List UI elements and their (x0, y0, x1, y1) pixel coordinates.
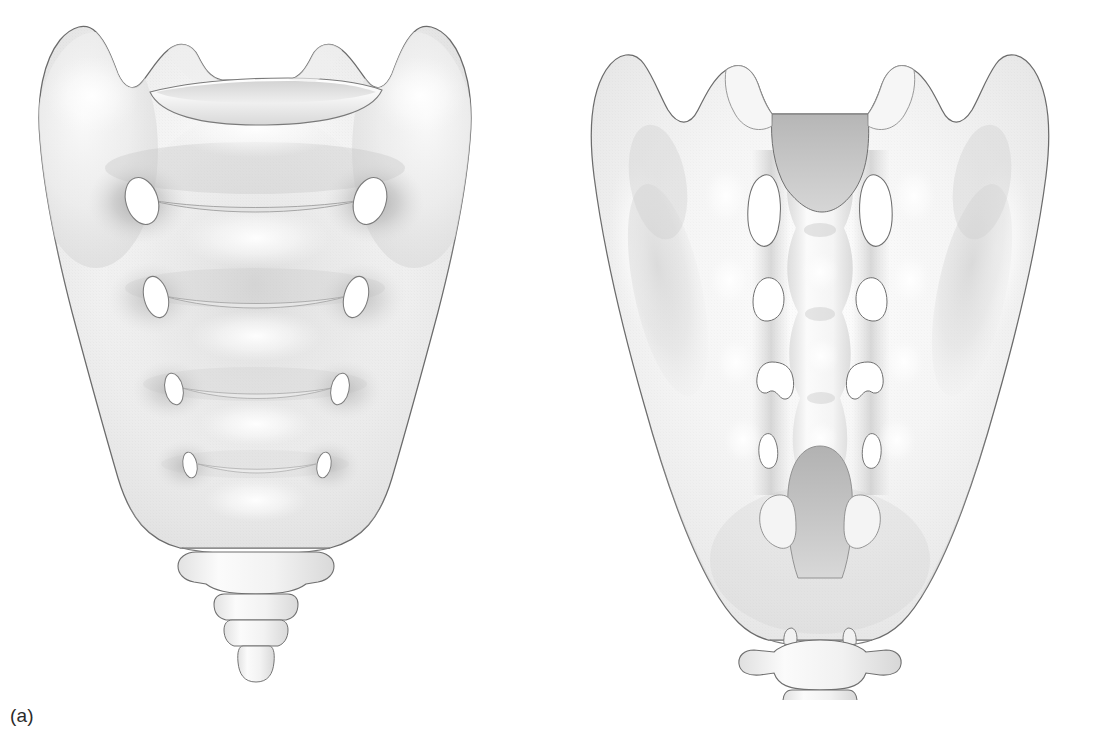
posterior-sacral-foramen-s1-right (860, 175, 893, 247)
posterior-sacral-foramen-s2-left (753, 278, 784, 321)
posterior-sacral-foramen-s4-right (862, 434, 881, 469)
panel-label-a: (a) (10, 705, 34, 727)
crest-notch-3 (807, 392, 835, 404)
sacral-hiatus (787, 446, 852, 578)
coccyx-segment-2 (214, 594, 298, 620)
posterior-sacral-foramen-s2-right (856, 278, 887, 321)
highlight-ala-left (46, 56, 138, 136)
sacrum-posterior-body (540, 0, 1099, 700)
coccyx-segment-1 (178, 552, 334, 594)
highlight-s5-body (204, 478, 308, 522)
anterior-sacrum-illustration (0, 0, 540, 700)
coccyx-segment-3 (224, 620, 288, 646)
coccyx-segment-4 (238, 646, 275, 682)
posterior-sacral-foramen-s4-left (759, 434, 778, 469)
posterior-sacral-foramen-s1-left (748, 175, 781, 247)
highlight-s4-body (200, 402, 312, 446)
coccyx-segment-1 (739, 640, 901, 690)
highlight-s3-body (190, 310, 322, 362)
panel-anterior-view: (a) (0, 0, 540, 700)
spinous-tubercle-s3 (803, 336, 839, 376)
posterior-sacrum-illustration (540, 0, 1099, 700)
highlight-s2-body (182, 208, 330, 268)
crest-notch-1 (804, 223, 836, 237)
highlight-ala-right (374, 56, 466, 136)
figure-sacrum-coccyx: (a) (0, 0, 1099, 751)
coccyx-segment-2 (783, 690, 857, 700)
spinous-tubercle-s2 (801, 251, 839, 293)
coccyx-anterior (178, 552, 334, 682)
crest-notch-2 (805, 307, 835, 321)
panel-posterior-view: (b) (540, 0, 1099, 700)
